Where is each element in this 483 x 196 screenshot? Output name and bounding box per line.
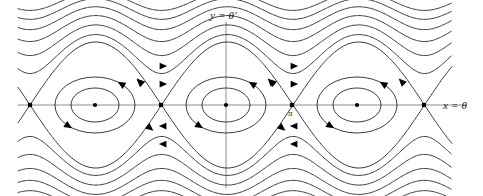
arrow-libration-1-0 (249, 82, 258, 89)
arrow-outer-libration-1 (268, 79, 276, 87)
separatrix-lower-2 (292, 105, 424, 168)
y-axis-label: y = θ′ (210, 9, 237, 21)
phase-portrait-canvas (0, 0, 483, 196)
separatrix-upper-2 (292, 42, 424, 105)
arrow-libration-2-1 (325, 121, 334, 128)
arrow-rotation-right-2 (291, 63, 299, 70)
rotation-orbit-below-2 (18, 168, 451, 194)
saddle-point-0 (28, 103, 32, 107)
separatrix-upper-0 (30, 42, 161, 105)
separatrix-lower-1 (161, 106, 292, 168)
arrow-outer-libration-2 (399, 79, 407, 87)
center-point-2 (355, 103, 359, 107)
center-point-1 (224, 103, 228, 107)
arrow-rotation-right-3 (291, 81, 299, 88)
separatrix-stub-upper-left (18, 87, 30, 105)
y-axis-label-text: y = θ′ (210, 9, 237, 21)
x-axis-label: x = θ (443, 99, 467, 111)
arrow-libration-2-0 (380, 82, 389, 89)
arrow-rotation-right-1 (160, 81, 168, 88)
rotation-orbit-below-1 (18, 154, 451, 185)
arrow-rotation-left-3 (290, 123, 298, 130)
rotation-orbit-above-0 (18, 35, 451, 74)
pi-tick-label-text: π (288, 108, 293, 118)
arrow-libration-1-1 (194, 121, 203, 128)
saddle-point-3 (422, 103, 426, 107)
phase-portrait-figure: y = θ′ x = θ π (0, 0, 483, 196)
center-point-0 (93, 103, 97, 107)
arrow-libration-0-1 (63, 121, 72, 128)
arrow-outer-libration-0 (137, 79, 145, 87)
pi-tick-label: π (288, 108, 293, 118)
separatrix-lower-0 (30, 105, 161, 168)
x-axis-label-text: x = θ (443, 99, 467, 111)
saddle-point-1 (159, 103, 163, 107)
arrow-rotation-left-1 (159, 123, 167, 130)
separatrix-stub-lower-left (18, 105, 30, 123)
separatrix-stub-lower-right (424, 106, 452, 144)
phase-curves-group (18, 0, 466, 196)
rotation-orbit-above-1 (18, 25, 451, 56)
rotation-orbit-below-0 (18, 136, 451, 175)
arrow-rotation-right-0 (160, 63, 168, 70)
arrow-libration-0-0 (118, 82, 127, 89)
saddle-point-2 (290, 103, 294, 107)
arrow-rotation-left-0 (159, 141, 167, 148)
arrow-rotation-left-2 (290, 141, 298, 148)
separatrix-upper-1 (161, 42, 292, 104)
